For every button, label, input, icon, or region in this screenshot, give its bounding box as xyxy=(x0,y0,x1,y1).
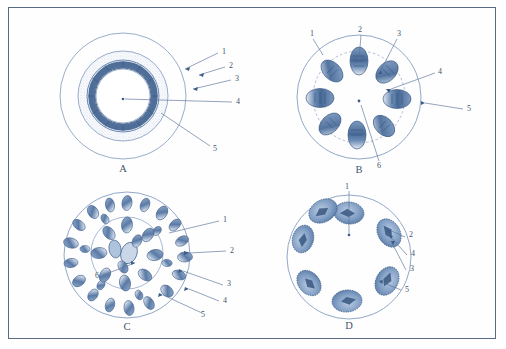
label-d-5: 5 xyxy=(405,285,409,294)
vascular-bundle xyxy=(62,236,79,250)
figure-frame: 1 2 3 4 5 A xyxy=(8,7,496,339)
label-d-2: 2 xyxy=(409,230,413,239)
panel-d-caption: D xyxy=(345,320,353,331)
vascular-bundle xyxy=(121,217,133,234)
label-c-1: 1 xyxy=(223,215,227,224)
label-b-4: 4 xyxy=(438,67,442,76)
pith-cavity xyxy=(96,69,150,123)
panel-b-drawing: 1 2 3 4 5 6 B xyxy=(297,25,471,175)
vascular-bundle xyxy=(80,245,91,253)
label-c-3: 3 xyxy=(227,279,231,288)
vascular-bundle xyxy=(123,300,135,316)
pith-center-dot xyxy=(122,98,125,101)
label-b-3: 3 xyxy=(397,29,401,38)
label-a-2: 2 xyxy=(229,61,233,70)
vascular-bundle xyxy=(63,258,78,269)
vascular-bundle xyxy=(71,217,88,233)
label-d-1: 1 xyxy=(345,182,349,191)
vascular-bundle xyxy=(317,56,347,86)
vascular-bundle xyxy=(141,295,156,312)
vascular-bundle xyxy=(292,266,326,301)
label-a-5: 5 xyxy=(213,144,217,153)
panel-a: 1 2 3 4 5 A xyxy=(17,13,253,177)
panel-d-drawing: 1 2 4 3 5 D xyxy=(287,182,415,331)
vascular-bundle xyxy=(136,267,154,284)
label-c-6: 6 xyxy=(95,271,99,280)
vascular-bundle-group xyxy=(306,47,411,149)
label-a-4: 4 xyxy=(236,97,240,106)
pith-center-dot xyxy=(348,234,351,237)
pith-center-dot xyxy=(358,100,361,103)
vascular-bundle xyxy=(350,47,368,75)
panel-d: 1 2 4 3 5 D xyxy=(255,175,491,337)
panel-c-drawing: 1 2 3 4 5 6 C xyxy=(62,192,234,332)
vascular-bundle xyxy=(167,217,183,233)
vascular-bundle xyxy=(369,111,399,141)
vascular-bundle xyxy=(383,90,411,109)
vascular-bundle xyxy=(331,289,363,314)
vascular-bundle xyxy=(348,121,366,149)
vascular-bundle xyxy=(99,213,110,226)
vascular-bundle xyxy=(134,289,145,301)
vascular-bundle xyxy=(174,234,191,249)
label-d-4: 4 xyxy=(411,249,415,258)
panel-c-caption: C xyxy=(123,321,130,332)
label-d-3: 3 xyxy=(410,264,414,273)
vascular-bundle xyxy=(305,194,342,228)
vascular-bundle xyxy=(306,89,334,108)
vascular-bundle xyxy=(104,297,117,313)
label-c-2: 2 xyxy=(230,246,234,255)
label-c-4: 4 xyxy=(223,296,227,305)
vascular-bundle xyxy=(138,197,151,213)
vascular-bundle xyxy=(121,195,133,211)
label-a-3: 3 xyxy=(235,74,239,83)
panel-c: 1 2 3 4 5 6 C xyxy=(17,175,253,337)
panel-a-caption: A xyxy=(119,163,127,174)
label-b-2: 2 xyxy=(358,25,362,34)
vascular-bundle xyxy=(91,247,108,259)
panel-a-drawing: 1 2 3 4 5 A xyxy=(60,33,240,174)
panel-b: 1 2 3 4 5 6 B xyxy=(255,13,491,177)
vascular-bundle xyxy=(289,223,317,255)
panel-b-caption: B xyxy=(355,164,362,175)
label-c-5: 5 xyxy=(201,310,205,319)
label-b-1: 1 xyxy=(310,29,314,38)
vascular-bundle xyxy=(371,56,402,87)
label-b-5: 5 xyxy=(467,104,471,113)
vascular-bundle xyxy=(146,248,164,262)
vascular-bundle-central xyxy=(108,239,123,259)
vascular-bundle xyxy=(104,197,115,212)
vascular-bundle xyxy=(162,259,173,267)
vascular-bundle xyxy=(315,109,345,139)
label-a-1: 1 xyxy=(222,47,226,56)
label-b-6: 6 xyxy=(377,161,381,170)
vascular-bundle xyxy=(100,224,117,242)
